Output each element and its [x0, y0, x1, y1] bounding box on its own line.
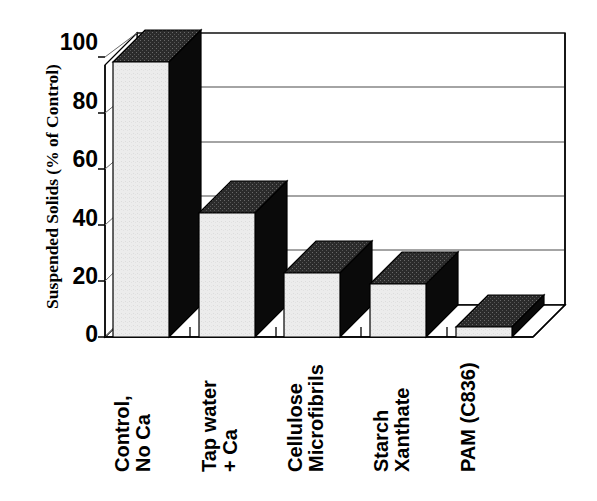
- x-category-label-starch-xanthate: Starch Xanthate: [371, 388, 413, 472]
- cat-line-2: Microfibrils: [306, 364, 327, 472]
- cat-line-1: Cellulose: [284, 383, 306, 472]
- cat-line-1: Starch: [370, 410, 392, 472]
- x-category-label-control-no-ca: Control, No Ca: [112, 395, 154, 472]
- x-category-label-pam-c836: PAM (C836): [458, 362, 479, 472]
- cat-line-2: + Ca: [220, 380, 241, 472]
- x-category-label-cellulose-microfibrils: Cellulose Microfibrils: [285, 364, 327, 472]
- bar-tap-water-ca: [199, 181, 287, 337]
- bar-chart: Suspended Solids (% of Control) 100 80 6…: [0, 0, 597, 501]
- bar-control-no-ca: [113, 30, 201, 337]
- cat-line-2: No Ca: [133, 395, 154, 472]
- cat-line-1: Tap water: [198, 380, 220, 472]
- y-axis-ticks: [98, 57, 105, 337]
- cat-line-1: Control,: [111, 395, 133, 472]
- cat-line-1: PAM (C836): [457, 362, 479, 472]
- x-category-label-tap-water-ca: Tap water + Ca: [199, 380, 241, 472]
- cat-line-2: Xanthate: [392, 388, 413, 472]
